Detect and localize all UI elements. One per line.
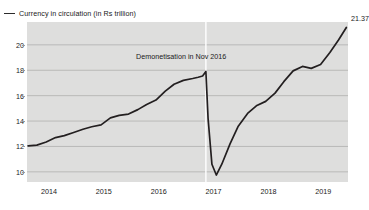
y-tick-label: 18 [4,66,24,75]
plot-svg [27,22,348,182]
y-tick-mark [22,146,25,147]
y-tick-mark [22,96,25,97]
y-tick-label: 10 [4,167,24,176]
y-tick-mark [22,172,25,173]
y-tick-label: 20 [4,40,24,49]
chart-legend: Currency in circulation (in Rs trillion) [4,7,136,19]
x-tick-label: 2019 [315,187,331,196]
x-tick-label: 2014 [41,187,57,196]
y-tick-label: 14 [4,117,24,126]
x-tick-label: 2018 [260,187,276,196]
series-line-currency [28,27,346,175]
plot-area [27,22,348,182]
gridlines [27,45,348,172]
y-axis: 101214161820 [0,22,24,182]
currency-circulation-chart: Currency in circulation (in Rs trillion)… [0,0,369,210]
x-tick-label: 2015 [96,187,112,196]
annotation-demonetisation: Demonetisation in Nov 2016 [136,52,226,61]
y-tick-mark [22,121,25,122]
x-axis: 201420152016201720182019 [27,182,348,204]
legend-label: Currency in circulation (in Rs trillion) [19,9,136,18]
y-tick-mark [22,45,25,46]
y-tick-label: 12 [4,142,24,151]
x-tick-label: 2017 [206,187,222,196]
end-value-label: 21.37 [351,14,369,23]
y-tick-label: 16 [4,91,24,100]
x-tick-label: 2016 [151,187,167,196]
line-swatch-icon [4,13,15,14]
y-tick-mark [22,70,25,71]
